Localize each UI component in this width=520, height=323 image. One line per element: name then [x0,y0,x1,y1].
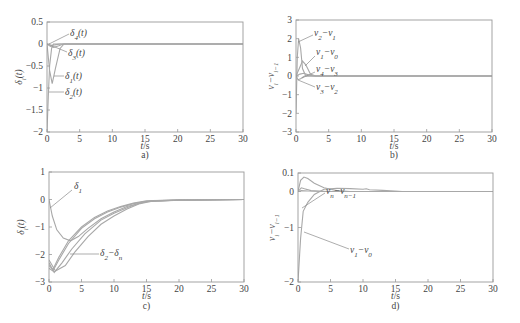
panel-caption: a) [141,150,148,161]
panel-caption: d) [392,301,400,312]
x-tick-label: 25 [455,134,465,144]
annotation-leader-line [305,56,315,66]
x-tick-label: 20 [422,134,432,144]
y-tick-label: −1 [284,223,294,233]
series-line [49,200,244,272]
x-tick-label: 0 [294,134,299,144]
x-tick-label: 30 [488,284,498,294]
curves [49,200,244,273]
x-tick-label: 0 [45,134,50,144]
series-annotation: δ3(t) [68,48,85,62]
annotation-leader-line [298,35,313,42]
y-tick-label: 2 [287,34,292,44]
series-annotation: δ1(t) [65,71,82,85]
x-tick-label: 5 [328,284,333,294]
series-annotation: v3−v2 [316,82,338,96]
x-tick-label: 5 [79,284,84,294]
y-tick-label: 0.5 [31,17,43,27]
series-annotation: δ4(t) [70,28,87,42]
y-tick-label: 0 [287,71,292,81]
x-tick-label: 5 [77,134,82,144]
y-tick-label: 1 [287,53,292,63]
panel-caption: c) [143,301,150,312]
y-axis-label: δi(t) [14,69,28,84]
x-tick-label: 0 [296,284,301,294]
y-tick-label: −1 [35,222,45,232]
y-tick-label: 0.1 [282,168,294,178]
x-tick-label: 30 [239,284,249,294]
x-tick-label: 10 [108,134,118,144]
series-annotation: δ1 [74,181,82,195]
series-line [296,76,492,80]
y-axis-label: vi−vi−1 [266,63,280,90]
annotation-leader-line [49,34,69,44]
x-tick-label: 25 [207,284,217,294]
y-tick-label: 3 [287,15,292,25]
series-annotation: v2−v1 [314,28,336,42]
x-tick-label: 25 [206,134,216,144]
series-line [49,200,244,272]
x-tick-label: 20 [173,134,183,144]
x-tick-label: 20 [174,284,184,294]
series-annotation: v1−v0 [316,47,338,61]
y-tick-label: −2 [282,109,292,119]
y-tick-label: 1 [40,167,45,177]
panel-caption: b) [390,150,398,161]
y-tick-label: −1 [33,83,43,93]
y-tick-label: 0 [289,187,294,197]
y-tick-label: −2 [284,277,294,287]
series-annotation: δ2(t) [65,87,82,101]
x-tick-label: 5 [326,134,331,144]
x-tick-label: 20 [423,284,433,294]
x-tick-label: 10 [109,284,119,294]
y-axis-label: vi−vi−1 [267,214,281,241]
y-tick-label: −1.5 [26,105,43,115]
x-tick-label: 10 [357,134,367,144]
y-tick-label: −1 [282,90,292,100]
series-line [49,200,244,270]
series-line [47,44,243,45]
x-tick-label: 30 [238,134,248,144]
y-tick-label: −2 [33,127,43,137]
annotation-leader-line [50,190,72,208]
x-tick-label: 0 [47,284,52,294]
figure-canvas: 051015202530−2−1.5−1−0.500.5t/sδi(t)a)δ4… [0,0,520,323]
series-annotation: δ2−δn [100,248,123,262]
x-axis-label: t/s [391,291,400,301]
series-line [298,188,493,282]
x-tick-label: 25 [456,284,466,294]
y-tick-label: −3 [282,127,292,137]
y-tick-label: −0.5 [26,61,43,71]
y-tick-label: −3 [35,277,45,287]
chart-panel-c: 051015202530−3−2−101t/sδi(t)c)δ1δ2−δn [16,167,249,312]
chart-panel-b: 051015202530−3−2−10123t/svi−vi−1b)v2−v1v… [266,15,497,161]
series-annotation: v1−v0 [350,245,372,259]
x-axis-label: t/s [142,291,151,301]
series-line [49,200,244,241]
y-axis-label: δi(t) [16,219,30,234]
y-tick-label: 0 [40,195,45,205]
y-tick-label: 0 [38,39,43,49]
y-tick-label: −2 [35,250,45,260]
x-tick-label: 30 [487,134,497,144]
annotation-leader-line [298,80,315,87]
annotation-leader-line [304,232,349,249]
series-annotation: vn−vn−1 [326,186,356,200]
chart-panel-d: 051015202530−2−100.1t/svi−vi−1d)vn−vn−1v… [267,168,498,312]
x-tick-label: 10 [358,284,368,294]
chart-panel-a: 051015202530−2−1.5−1−0.500.5t/sδi(t)a)δ4… [14,17,248,161]
